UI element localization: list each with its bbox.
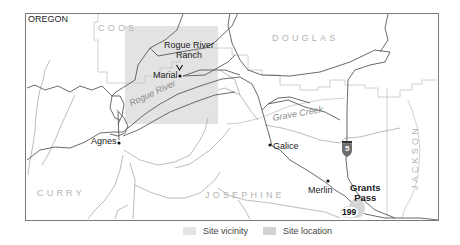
- place-label-merlin: Merlin: [308, 186, 333, 195]
- legend-label-site-vicinity: Site vicinity: [203, 226, 248, 236]
- legend-item-site-vicinity: Site vicinity: [183, 226, 248, 236]
- place-label-galice: Galice: [273, 142, 299, 151]
- state-label: OREGON: [28, 15, 68, 24]
- us-199-number: 199: [342, 208, 356, 217]
- marial-marker: [178, 74, 181, 77]
- agnes-marker: [117, 141, 120, 144]
- county-label-coos: COOS: [98, 24, 137, 33]
- county-label-douglas: DOUGLAS: [272, 34, 338, 43]
- county-label-josephine: JOSEPHINE: [205, 191, 285, 200]
- interstate-5-number: 5: [345, 145, 349, 153]
- place-label-marial: Marial: [153, 71, 178, 80]
- place-label-agnes: Agnes: [91, 137, 117, 146]
- place-label-rogue-river-ranch: Rogue River Ranch: [164, 40, 214, 60]
- grants-pass-line2: Pass: [350, 193, 381, 203]
- legend-label-site-location: Site location: [283, 226, 332, 236]
- galice-marker: [268, 143, 271, 146]
- jackson-text: JACKSON: [410, 125, 420, 190]
- place-label-grants-pass: Grants Pass: [350, 183, 381, 203]
- map-canvas: [0, 0, 460, 245]
- site-vicinity-swatch: [183, 227, 196, 235]
- map-legend: Site vicinity Site location: [183, 226, 347, 236]
- site-location-swatch: [263, 227, 276, 235]
- county-label-jackson: JACKSON: [411, 180, 420, 190]
- county-label-curry: CURRY: [37, 189, 85, 198]
- rogue-river-ranch-line1: Rogue River: [164, 40, 214, 50]
- legend-item-site-location: Site location: [263, 226, 332, 236]
- rogue-river-ranch-line2: Ranch: [164, 50, 214, 60]
- merlin-marker: [326, 179, 329, 182]
